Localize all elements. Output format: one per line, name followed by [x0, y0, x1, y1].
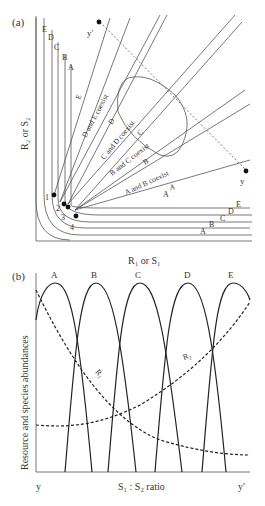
vlabel-E: E [42, 25, 47, 34]
point-label-4: 4 [70, 223, 74, 232]
panel-b [36, 273, 250, 472]
panel-b-x-left: y [36, 481, 41, 492]
point-3 [66, 205, 71, 210]
zngi-D [52, 30, 250, 228]
vlabel-B: B [62, 53, 67, 62]
curve-D [155, 283, 226, 472]
point-label-2: 2 [56, 204, 60, 213]
region-D: D [106, 116, 117, 126]
zngi-B [65, 55, 252, 215]
point-label-3: 3 [61, 213, 65, 222]
point-2 [62, 202, 67, 207]
panel-a-label: (a) [12, 16, 25, 29]
hlabel-C: C [220, 214, 225, 223]
hlabel-D: D [228, 207, 234, 216]
supply-ellipse [117, 77, 187, 156]
panel-a-y-label: R₂ or S₂ [19, 117, 30, 150]
curve-E [202, 283, 250, 472]
hlabel-A-top: A [163, 190, 169, 199]
curve-C [108, 283, 182, 472]
point-4 [74, 214, 79, 219]
point-1 [52, 193, 57, 198]
vlabel-D: D [48, 33, 54, 42]
panel-b-x-right: y′ [238, 481, 245, 492]
species-label-A: A [51, 270, 58, 280]
supply-label-y: y [240, 176, 245, 186]
figure-canvas: (a) R₂ or S₂ R₁ or S₁ E D C B A A E D C … [0, 0, 265, 506]
panel-b-x-label: S₁ : S₂ ratio [118, 481, 165, 492]
hlabel-E: E [236, 200, 241, 209]
resource-label-R2: R₂ [182, 351, 193, 362]
species-label-B: B [91, 270, 97, 280]
vlabel-A: A [68, 63, 74, 72]
supply-label-y-prime: y′ [87, 28, 94, 38]
panel-b-y-label: Resource and species abundances [19, 335, 30, 470]
region-E: E [74, 93, 84, 101]
vlabel-C: C [54, 43, 59, 52]
hlabel-B: B [209, 220, 214, 229]
curve-A [36, 283, 92, 472]
resource-label-R1: R₁ [93, 368, 105, 380]
point-label-1: 1 [45, 193, 49, 202]
curve-R2 [36, 302, 250, 426]
region-C: C [135, 128, 145, 138]
supply-point-y-prime [97, 20, 102, 25]
supply-gradient-line [100, 22, 246, 170]
supply-point-y [244, 169, 249, 174]
species-label-C: C [135, 270, 141, 280]
hlabel-A: A [200, 227, 206, 236]
species-label-D: D [184, 270, 191, 280]
region-A: A [169, 182, 176, 192]
species-label-E: E [228, 270, 234, 280]
zngi-A [71, 65, 250, 208]
panel-b-label: (b) [12, 270, 25, 283]
panel-a-x-label: R₁ or S₁ [128, 255, 161, 266]
